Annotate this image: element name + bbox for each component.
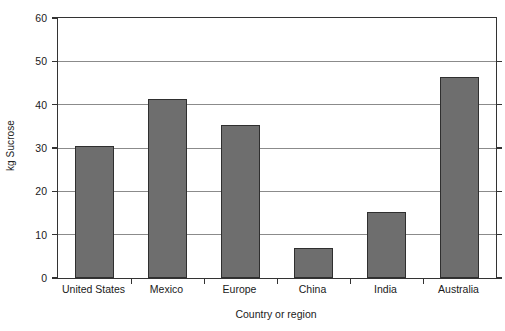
y-axis-tick-right: [496, 234, 502, 235]
x-axis-tick: [423, 278, 424, 284]
plot-frame-top: [57, 17, 497, 18]
gridline: [58, 104, 496, 105]
y-axis-tick: [52, 17, 58, 18]
y-axis-tick-label: 40: [0, 99, 47, 111]
y-axis-tick-label: 20: [0, 185, 47, 197]
y-axis-tick: [52, 234, 58, 235]
y-axis-tick-right: [496, 277, 502, 278]
x-axis-tick: [131, 278, 132, 284]
x-axis-tick-label: United States: [62, 283, 125, 295]
bar: [148, 99, 187, 278]
y-axis-tick-label: 30: [0, 142, 47, 154]
y-axis-tick: [52, 61, 58, 62]
gridline: [58, 191, 496, 192]
y-axis-tick-right: [496, 191, 502, 192]
y-axis-tick-label: 0: [0, 272, 47, 284]
y-axis-tick: [52, 147, 58, 148]
x-axis-title: Country or region: [57, 308, 495, 320]
y-axis-tick-label: 10: [0, 229, 47, 241]
gridline: [58, 234, 496, 235]
x-axis-tick-label: China: [299, 283, 326, 295]
y-axis-tick: [52, 104, 58, 105]
y-axis-tick: [52, 277, 58, 278]
x-axis-tick: [277, 278, 278, 284]
bar: [75, 146, 114, 278]
y-axis-tick-right: [496, 104, 502, 105]
y-axis-tick-right: [496, 147, 502, 148]
x-axis-tick-label: India: [374, 283, 397, 295]
x-axis-tick: [350, 278, 351, 284]
bar: [294, 248, 333, 278]
bar-chart: kg Sucrose 0102030405060 United StatesMe…: [0, 0, 505, 331]
y-axis-tick-right: [496, 61, 502, 62]
gridline: [58, 61, 496, 62]
plot-area: [57, 18, 497, 279]
x-axis-tick-label: Mexico: [150, 283, 183, 295]
x-axis-tick-label: Europe: [223, 283, 257, 295]
x-axis-tick: [204, 278, 205, 284]
y-axis-tick-label: 50: [0, 55, 47, 67]
y-axis-tick: [52, 191, 58, 192]
gridline: [58, 148, 496, 149]
y-axis-tick-label: 60: [0, 12, 47, 24]
bar: [221, 125, 260, 278]
bar: [440, 77, 479, 279]
x-axis-tick-label: Australia: [438, 283, 479, 295]
bar: [367, 212, 406, 278]
